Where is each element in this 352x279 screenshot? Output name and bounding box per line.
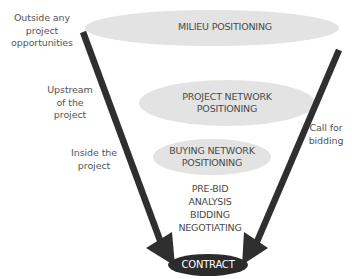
label-call-line1: Call for: [303, 122, 349, 135]
label-upstream-line1: Upstream: [40, 84, 100, 97]
label-call-line2: bidding: [303, 135, 349, 148]
contract-ellipse: CONTRACT: [168, 254, 248, 276]
step-analysis: ANALYSIS: [160, 195, 260, 208]
process-steps: PRE-BID ANALYSIS BIDDING NEGOTIATING: [160, 182, 260, 234]
label-upstream-project: Upstream of the project: [40, 84, 100, 122]
label-upstream-line3: project: [40, 109, 100, 122]
label-upstream-line2: of the: [40, 97, 100, 110]
label-outside-project: Outside any project opportunities: [4, 12, 80, 50]
step-pre-bid: PRE-BID: [160, 182, 260, 195]
label-inside-line1: Inside the: [62, 147, 126, 160]
label-outside-line3: opportunities: [4, 37, 80, 50]
label-outside-line2: project: [4, 25, 80, 38]
funnel-diagram: MILIEU POSITIONING PROJECT NETWORK POSIT…: [0, 0, 352, 279]
label-call-for-bidding: Call for bidding: [303, 122, 349, 147]
label-outside-line1: Outside any: [4, 12, 80, 25]
step-negotiating: NEGOTIATING: [160, 221, 260, 234]
label-inside-line2: project: [62, 160, 126, 173]
step-bidding: BIDDING: [160, 208, 260, 221]
contract-label: CONTRACT: [181, 259, 234, 270]
label-inside-project: Inside the project: [62, 147, 126, 172]
